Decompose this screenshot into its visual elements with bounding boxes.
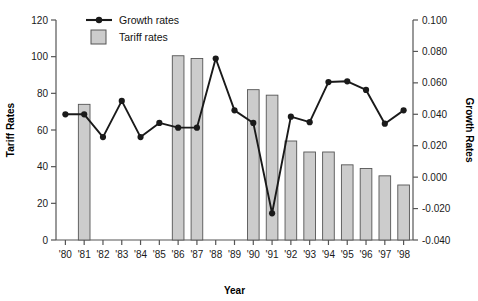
growth-rates-point [269, 210, 275, 216]
x-axis-tick-label: '93 [303, 249, 316, 260]
x-axis-tick-label: '97 [378, 249, 391, 260]
x-axis-tick-label: '90 [247, 249, 260, 260]
x-axis-tick-label: '82 [96, 249, 109, 260]
tariff-bar [379, 176, 391, 240]
right-axis-tick-label: 0.020 [422, 140, 447, 151]
tariff-bar [323, 152, 335, 240]
x-axis-tick-label: '85 [153, 249, 166, 260]
tariff-bar [304, 152, 316, 240]
growth-rates-point [344, 78, 350, 84]
left-axis-tick-label: 0 [42, 235, 48, 246]
growth-rates-point [81, 111, 87, 117]
growth-rates-point [401, 107, 407, 113]
right-axis-tick-label: 0.000 [422, 172, 447, 183]
x-axis-tick-label: '91 [266, 249, 279, 260]
growth-rates-point [100, 134, 106, 140]
x-axis-tick-label: '86 [172, 249, 185, 260]
tariff-bar [247, 90, 259, 240]
x-axis-tick-label: '83 [115, 249, 128, 260]
tariff-bar [285, 141, 297, 240]
growth-rates-point [119, 98, 125, 104]
left-axis-tick-label: 40 [37, 161, 49, 172]
legend-tariff-swatch [91, 30, 106, 44]
growth-rates-point [194, 125, 200, 131]
right-axis-tick-label: 0.060 [422, 77, 447, 88]
x-axis-tick-label: '92 [284, 249, 297, 260]
growth-rates-point [62, 111, 68, 117]
growth-rates-point [156, 120, 162, 126]
x-axis-tick-label: '96 [360, 249, 373, 260]
tariff-bar [341, 165, 353, 240]
right-axis-tick-label: 0.080 [422, 46, 447, 57]
tariff-bar [191, 59, 203, 241]
right-axis-title: Growth Rates [464, 97, 475, 162]
x-axis-tick-label: '98 [397, 249, 410, 260]
growth-rates-point [137, 134, 143, 140]
x-axis-tick-label: '88 [209, 249, 222, 260]
x-axis-tick-label: '81 [78, 249, 91, 260]
growth-rates-point [288, 114, 294, 120]
legend-growth-label: Growth rates [119, 14, 179, 26]
tariff-growth-combo-chart: 020406080100120-0.040-0.0200.0000.0200.0… [0, 0, 478, 301]
growth-rates-point [175, 125, 181, 131]
legend-tariff-label: Tariff rates [119, 31, 168, 43]
growth-rates-point [231, 107, 237, 113]
x-axis-tick-label: '80 [59, 249, 72, 260]
left-axis-tick-label: 80 [37, 88, 49, 99]
x-axis-tick-label: '89 [228, 249, 241, 260]
left-axis-tick-label: 60 [37, 125, 49, 136]
x-axis-tick-label: '94 [322, 249, 335, 260]
growth-rates-point [250, 120, 256, 126]
growth-rates-point [307, 119, 313, 125]
left-axis-tick-label: 20 [37, 198, 49, 209]
tariff-bar [398, 185, 410, 240]
x-axis-tick-label: '84 [134, 249, 147, 260]
right-axis-tick-label: -0.020 [422, 203, 451, 214]
tariff-bar [360, 169, 372, 241]
tariff-bar [78, 104, 90, 240]
chart-container: 020406080100120-0.040-0.0200.0000.0200.0… [0, 0, 478, 301]
tariff-bar [266, 95, 278, 240]
x-axis-tick-label: '87 [190, 249, 203, 260]
x-axis-tick-label: '95 [341, 249, 354, 260]
tariff-bar [172, 56, 184, 240]
right-axis-tick-label: 0.100 [422, 15, 447, 26]
growth-rates-point [382, 121, 388, 127]
growth-rates-point [363, 87, 369, 93]
right-axis-tick-label: -0.040 [422, 235, 451, 246]
x-axis-title: Year [224, 285, 245, 296]
growth-rates-point [213, 55, 219, 61]
left-axis-title: Tariff Rates [5, 102, 16, 157]
legend-growth-dot-swatch [96, 17, 102, 23]
growth-rates-point [325, 79, 331, 85]
right-axis-tick-label: 0.040 [422, 109, 447, 120]
left-axis-tick-label: 120 [31, 15, 48, 26]
left-axis-tick-label: 100 [31, 51, 48, 62]
